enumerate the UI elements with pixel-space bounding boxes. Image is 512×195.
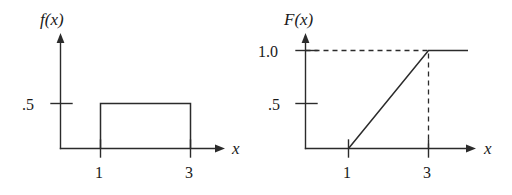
cdf-x-tick-label-1: 1 xyxy=(343,164,351,181)
cdf-x-axis-arrow-icon xyxy=(466,145,476,153)
cdf-x-axis-label: x xyxy=(483,139,492,158)
cdf-y-tick-label-0.5: .5 xyxy=(268,96,280,113)
chart-panel-cdf: F(x) x 1.0 .5 1 3 xyxy=(256,0,512,195)
cdf-y-tick-label-1.0: 1.0 xyxy=(258,43,278,60)
chart-panel-pdf: f(x) x .5 1 3 xyxy=(0,0,256,195)
pdf-y-tick-label-0.5: .5 xyxy=(22,96,34,113)
pdf-plot-canvas: f(x) x .5 1 3 xyxy=(0,0,256,195)
pdf-x-tick-label-1: 1 xyxy=(95,164,103,181)
pdf-x-axis-label: x xyxy=(231,139,240,158)
pdf-density-rectangle xyxy=(101,104,191,149)
cdf-x-tick-label-3: 3 xyxy=(423,164,431,181)
cdf-y-axis-label: F(x) xyxy=(283,10,314,29)
figure-root: f(x) x .5 1 3 xyxy=(0,0,512,195)
pdf-x-tick-label-3: 3 xyxy=(185,164,193,181)
cdf-y-axis-arrow-icon xyxy=(302,33,310,43)
pdf-y-axis-label: f(x) xyxy=(40,10,64,29)
cdf-plot-canvas: F(x) x 1.0 .5 1 3 xyxy=(256,0,512,195)
pdf-x-axis-arrow-icon xyxy=(215,145,225,153)
cdf-curve xyxy=(349,51,469,149)
pdf-y-axis-arrow-icon xyxy=(57,33,65,43)
